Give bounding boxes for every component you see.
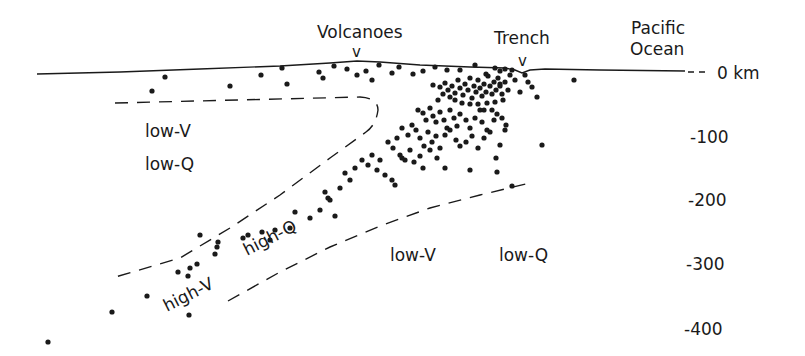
earthquake-dot [433, 119, 438, 124]
earthquake-dot [487, 83, 492, 88]
earthquake-dot [534, 94, 539, 99]
diagram-canvas: Volcanoes v Trench v Pacific Ocean 0 km … [0, 0, 805, 356]
earthquake-dot [449, 83, 454, 88]
earthquake-dot [502, 79, 507, 84]
earthquake-dot [463, 117, 468, 122]
earthquake-dot [186, 312, 191, 317]
earthquake-dot [214, 244, 219, 249]
mantle-low-q-label: low-Q [499, 245, 548, 265]
earthquake-dot [453, 137, 458, 142]
earthquake-dot [376, 62, 381, 67]
earthquake-dot [539, 142, 544, 147]
earthquake-dot [492, 99, 497, 104]
earthquake-dot [363, 68, 368, 73]
earthquake-dot [525, 79, 530, 84]
earthquake-dot [512, 77, 517, 82]
earthquake-dot [500, 97, 505, 102]
earthquake-dot [417, 153, 422, 158]
earthquake-dot [359, 157, 364, 162]
earthquake-dot [215, 239, 220, 244]
earthquake-dot [507, 72, 512, 77]
earthquake-dot [354, 72, 359, 77]
earthquake-dot [447, 127, 452, 132]
earthquake-dot [342, 170, 347, 175]
earthquake-dot [430, 82, 435, 87]
earthquake-dot [425, 129, 430, 134]
earthquake-dot [503, 122, 508, 127]
earthquake-dot [484, 100, 489, 105]
earthquake-dot [499, 115, 504, 120]
earthquake-dot [491, 79, 496, 84]
earthquake-dot [455, 77, 460, 82]
subduction-zone-cross-section: Volcanoes v Trench v Pacific Ocean 0 km … [0, 0, 805, 356]
earthquake-dot [430, 113, 435, 118]
earthquake-dot [347, 177, 352, 182]
earthquake-dot [162, 74, 167, 79]
earthquake-dot [465, 87, 470, 92]
earthquake-dot [396, 64, 401, 69]
earthquake-dot [413, 127, 418, 132]
earthquake-dot [327, 197, 332, 202]
earthquake-dot [467, 125, 472, 130]
earthquake-dot [497, 142, 502, 147]
earthquake-hypocenters [45, 62, 576, 344]
earthquake-dot [509, 67, 514, 72]
earthquake-dot [316, 69, 321, 74]
depth-tick-300: -300 [686, 254, 725, 274]
earthquake-dot [491, 117, 496, 122]
earthquake-dot [499, 91, 504, 96]
earthquake-dot [427, 147, 432, 152]
earthquake-dot [45, 339, 50, 344]
earthquake-dot [385, 139, 390, 144]
earthquake-dot [411, 159, 416, 164]
earthquake-dot [415, 107, 420, 112]
earthquake-dot [417, 135, 422, 140]
earthquake-dot [399, 125, 404, 130]
earthquake-dot [477, 85, 482, 90]
earthquake-dot [194, 261, 199, 266]
earthquake-dot [374, 167, 379, 172]
pacific-ocean-label-line1: Pacific [631, 18, 685, 38]
wedge-low-v-label: low-V [145, 121, 191, 141]
depth-tick-400: -400 [684, 319, 723, 339]
earthquake-dot [475, 77, 480, 82]
earthquake-dot [399, 155, 404, 160]
earthquake-dot [322, 189, 327, 194]
earthquake-dot [477, 107, 482, 112]
earthquake-dot [522, 72, 527, 77]
earthquake-dot [410, 71, 415, 76]
earthquake-dot [497, 81, 502, 86]
earthquake-dot [509, 183, 514, 188]
earthquake-dot [487, 129, 492, 134]
earthquake-dot [475, 101, 480, 106]
earthquake-dot [457, 85, 462, 90]
slab-high-q-label: high-Q [240, 216, 300, 260]
earthquake-dot [437, 109, 442, 114]
earthquake-dot [505, 87, 510, 92]
volcano-marker: v [352, 43, 361, 61]
earthquake-dot [467, 167, 472, 172]
earthquake-dot [529, 84, 534, 89]
earthquake-dot [472, 115, 477, 120]
earthquake-dot [389, 70, 394, 75]
earthquake-dot [307, 215, 312, 220]
earthquake-dot [489, 107, 494, 112]
earthquake-dot [485, 73, 490, 78]
earthquake-dot [489, 91, 494, 96]
earthquake-dot [258, 72, 263, 77]
earthquake-dot [144, 293, 149, 298]
depth-tick-0: 0 km [717, 63, 760, 83]
earthquake-dot [421, 143, 426, 148]
earthquake-dot [471, 83, 476, 88]
earthquake-dot [469, 95, 474, 100]
earthquake-dot [467, 101, 472, 106]
earthquake-dot [320, 75, 325, 80]
earthquake-dot [467, 75, 472, 80]
earthquake-dot [352, 165, 357, 170]
earthquake-dot [494, 169, 499, 174]
earthquake-dot [197, 232, 202, 237]
earthquake-dot [457, 67, 462, 72]
earthquake-dot [390, 145, 395, 150]
surface-profile-line [37, 61, 685, 74]
earthquake-dot [344, 66, 349, 71]
